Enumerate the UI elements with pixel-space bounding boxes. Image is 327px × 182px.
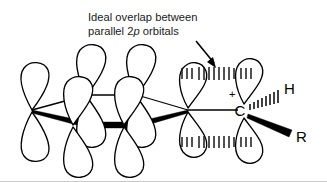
substituent-atom-label: R <box>296 128 307 145</box>
caption-line-2-post: orbitals <box>140 25 180 37</box>
caption-p-italic: p <box>132 25 139 37</box>
ring-thin-bonds <box>32 95 188 110</box>
p-orbital-icon <box>21 112 49 161</box>
p-orbital-icon <box>180 63 207 108</box>
p-orbital-icon <box>236 59 263 104</box>
orbital-overlap-figure: Ideal overlap between parallel 2p orbita… <box>0 0 327 182</box>
hydrogen-atom-label: H <box>284 80 295 97</box>
caption-line-2: parallel 2p orbitals <box>88 25 179 37</box>
positive-charge-label: + <box>229 88 235 100</box>
caption-line-2-pre: parallel 2 <box>88 25 133 37</box>
ring-wedge-bonds <box>32 110 188 128</box>
caption-line-1: Ideal overlap between <box>88 11 197 23</box>
orbital-overlap-dashes-icon-top <box>182 67 251 80</box>
p-orbital-icon <box>236 118 263 163</box>
orbital-diagram-svg: Ideal overlap between parallel 2p orbita… <box>0 0 327 182</box>
carbon-atom-label: C <box>235 102 246 119</box>
hashed-wedge-icon <box>250 90 278 110</box>
p-orbital-icon <box>21 63 49 110</box>
p-orbital-icon <box>180 112 207 157</box>
orbital-overlap-dashes-icon-bottom <box>182 136 251 148</box>
